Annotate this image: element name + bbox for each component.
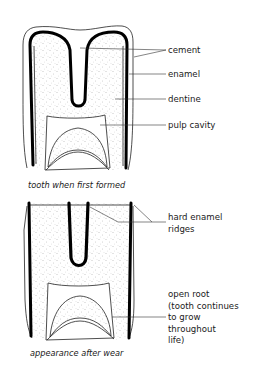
inner-arch-worn xyxy=(50,296,111,337)
tooth-first-formed: cement enamel dentine pulp cavity tooth … xyxy=(23,26,215,190)
enamel-wall-left xyxy=(29,203,31,336)
label-root-line2: (tooth continues xyxy=(168,301,239,311)
label-root-line4: throughout xyxy=(168,324,216,334)
label-cement: cement xyxy=(168,45,201,55)
dentine-worn xyxy=(29,203,131,340)
caption-after-wear: appearance after wear xyxy=(30,348,124,358)
caption-first-formed: tooth when first formed xyxy=(28,180,126,190)
label-open-root: open root xyxy=(168,289,210,299)
inner-arch xyxy=(48,128,107,167)
label-dentine: dentine xyxy=(168,94,201,104)
enamel-wall-right xyxy=(129,203,131,338)
label-root-line5: life) xyxy=(168,335,184,345)
tooth-diagram: cement enamel dentine pulp cavity tooth … xyxy=(0,0,259,375)
label-hard-enamel: hard enamel xyxy=(168,212,222,222)
label-root-line3: to grow xyxy=(168,312,200,322)
label-ridges: ridges xyxy=(168,224,195,234)
label-pulp-cavity: pulp cavity xyxy=(168,120,215,130)
label-enamel: enamel xyxy=(168,69,200,79)
tooth-after-wear: hard enamel ridges open root (tooth cont… xyxy=(24,203,239,358)
